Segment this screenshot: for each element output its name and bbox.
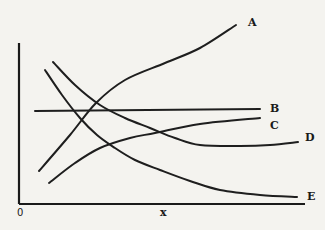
curve-c	[49, 118, 260, 183]
origin-label: 0	[17, 207, 23, 218]
curve-d	[53, 62, 298, 146]
curve-a	[39, 25, 236, 171]
curve-label-a: A	[247, 16, 257, 29]
axes	[19, 43, 305, 204]
curves	[35, 25, 298, 197]
curve-label-e: E	[307, 190, 315, 203]
curve-label-c: C	[270, 119, 279, 132]
curve-label-d: D	[305, 131, 315, 144]
curve-b	[35, 109, 260, 111]
line-chart: ABCDE 0 x	[0, 0, 325, 230]
curve-e	[45, 70, 297, 197]
x-axis-label: x	[160, 206, 167, 219]
curve-label-b: B	[270, 102, 279, 115]
